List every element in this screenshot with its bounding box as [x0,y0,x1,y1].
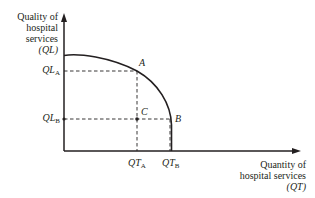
tick-sub: A [141,162,146,170]
x-axis-label-line: (QT) [210,181,306,192]
tick-base: QT [162,157,175,168]
point-a-label: A [139,57,145,68]
tick-sub: A [55,69,60,77]
tick-base: QL [43,112,56,123]
y-axis-label-line: (QL) [2,44,58,55]
y-axis-label-line: Quality of [2,11,58,22]
axes [64,20,294,151]
y-axis-label: Quality of hospital services (QL) [2,11,58,55]
ql-b-tick-dot [62,117,65,120]
tick-ql-a: QLA [20,64,60,79]
x-axis-label-line: hospital services [210,170,306,181]
tick-sub: B [55,117,60,125]
x-axis-label-line: Quantity of [210,159,306,170]
tick-base: QT [128,157,141,168]
tick-qt-a: QTA [128,157,146,172]
tick-base: QL [42,64,55,75]
y-axis-label-line: hospital [2,22,58,33]
point-c-dot [135,117,139,121]
y-axis-label-line: services [2,33,58,44]
guide-lines [64,71,171,151]
tick-sub: B [175,162,180,170]
point-c-label: C [141,106,148,117]
y-axis-arrow-icon [61,13,67,22]
tick-qt-b: QTB [162,157,179,172]
tick-ql-b: QLB [20,112,60,127]
ppf-curve [64,55,172,151]
x-axis-arrow-icon [292,148,301,154]
point-b-label: B [175,113,181,124]
x-axis-label: Quantity of hospital services (QT) [210,159,306,192]
